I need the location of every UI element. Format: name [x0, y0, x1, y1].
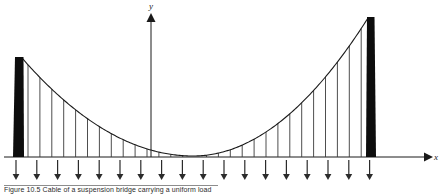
load-arrow — [158, 160, 165, 180]
left-tower — [13, 57, 24, 157]
suspension-bridge-diagram: x y — [0, 0, 444, 196]
x-axis-label: x — [433, 152, 438, 162]
load-arrow — [96, 160, 103, 180]
load-arrow — [241, 160, 248, 180]
load-arrow — [345, 160, 352, 180]
load-arrow — [283, 160, 290, 180]
load-arrow — [304, 160, 311, 180]
load-arrow — [366, 160, 373, 180]
distributed-load-arrows — [13, 160, 373, 180]
load-arrow — [221, 160, 228, 180]
figure-container: x y Figure 10.5 Cable of a suspension br… — [0, 0, 444, 196]
x-axis-arrowhead — [424, 153, 433, 162]
right-tower — [366, 17, 376, 157]
load-arrow — [200, 160, 207, 180]
load-arrow — [54, 160, 61, 180]
load-arrow — [137, 160, 144, 180]
load-arrow — [262, 160, 269, 180]
figure-caption: Figure 10.5 Cable of a suspension bridge… — [4, 186, 222, 196]
load-arrow — [325, 160, 332, 180]
load-arrow — [117, 160, 124, 180]
y-axis-label: y — [148, 1, 153, 11]
parabolic-cable — [22, 18, 368, 156]
load-arrow — [75, 160, 82, 180]
load-arrow — [179, 160, 186, 180]
load-arrow — [33, 160, 40, 180]
load-arrow — [13, 160, 20, 180]
y-axis-arrowhead — [147, 13, 156, 22]
